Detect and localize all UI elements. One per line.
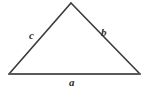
side-label-c: c xyxy=(29,30,34,41)
triangle-figure: c b a xyxy=(0,0,150,91)
side-label-b: b xyxy=(101,27,107,38)
triangle-shape xyxy=(0,0,150,91)
side-label-a: a xyxy=(69,77,75,88)
triangle-side-c-line xyxy=(9,3,71,74)
triangle-side-b-line xyxy=(71,3,140,74)
